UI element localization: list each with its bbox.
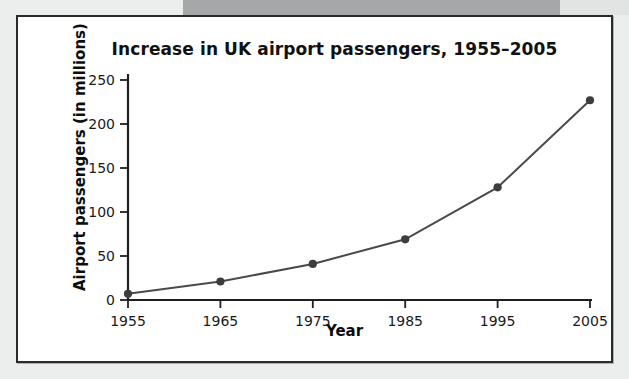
y-tick-label: 0 bbox=[106, 292, 115, 308]
x-tick-label: 1965 bbox=[203, 313, 239, 329]
data-series-line bbox=[128, 100, 590, 294]
data-point-markers bbox=[124, 96, 594, 298]
data-point-marker bbox=[124, 290, 132, 298]
x-tick-label: 1995 bbox=[480, 313, 516, 329]
x-tick-label: 2005 bbox=[572, 313, 608, 329]
line-chart-plot: 050100150200250 195519651975198519952005 bbox=[18, 17, 615, 365]
y-tick-label: 250 bbox=[88, 72, 115, 88]
y-tick-label: 100 bbox=[88, 204, 115, 220]
top-gray-band bbox=[183, 0, 560, 15]
x-tick-label: 1955 bbox=[110, 313, 146, 329]
y-tick-group: 050100150200250 bbox=[88, 72, 128, 308]
screenshot-canvas: Increase in UK airport passengers, 1955–… bbox=[0, 0, 629, 379]
data-point-marker bbox=[216, 277, 224, 285]
y-tick-label: 200 bbox=[88, 116, 115, 132]
data-point-marker bbox=[401, 235, 409, 243]
y-tick-label: 150 bbox=[88, 160, 115, 176]
data-point-marker bbox=[586, 96, 594, 104]
x-tick-label: 1975 bbox=[295, 313, 331, 329]
top-gray-band-right bbox=[560, 0, 629, 15]
data-point-marker bbox=[309, 260, 317, 268]
x-tick-group: 195519651975198519952005 bbox=[110, 300, 608, 329]
data-point-marker bbox=[494, 183, 502, 191]
y-tick-label: 50 bbox=[97, 248, 115, 264]
x-tick-label: 1985 bbox=[387, 313, 423, 329]
chart-figure-panel: Increase in UK airport passengers, 1955–… bbox=[16, 15, 613, 363]
